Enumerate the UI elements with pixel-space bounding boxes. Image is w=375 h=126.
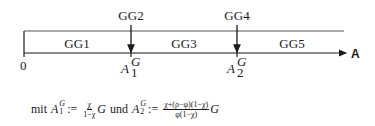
svg-text:A: A (226, 61, 235, 76)
g-symbol-2: G (210, 102, 219, 117)
a2-indices: G 2 (140, 100, 146, 116)
region-gg3-label: GG3 (171, 36, 196, 51)
fraction-a2: χ+(ρ−φ)(1−χ) φ(1−χ) (163, 100, 209, 119)
marker-a2-top-label: GG4 (224, 8, 250, 23)
definition-formula: mit A G 1 := χ 1−χ G und A G 2 := χ+(ρ−φ… (31, 97, 219, 121)
connector-word: und (110, 102, 128, 117)
marker-a1-label: A G 1 (120, 54, 141, 80)
origin-label: 0 (20, 58, 27, 73)
svg-text:2: 2 (237, 65, 244, 80)
marker-a1-top-label: GG2 (118, 8, 143, 23)
assign-operator-2: := (148, 102, 158, 117)
a1-indices: G 1 (59, 100, 65, 116)
g-symbol-1: G (97, 102, 106, 117)
a2-symbol: A (132, 102, 139, 117)
marker-a2-label: A G 2 (226, 54, 247, 80)
assign-operator-1: := (67, 102, 77, 117)
formula-prefix: mit (31, 102, 47, 117)
svg-text:A: A (120, 61, 129, 76)
a1-symbol: A (51, 102, 58, 117)
axis-label: A (351, 47, 360, 61)
fraction-a1: χ 1−χ (82, 100, 96, 119)
svg-text:1: 1 (131, 65, 138, 80)
region-gg5-label: GG5 (279, 36, 304, 51)
region-gg1-label: GG1 (64, 36, 89, 51)
